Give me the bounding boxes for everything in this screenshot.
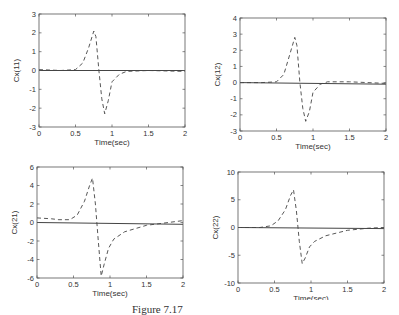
y-axis-label: Cx(11) (12, 58, 21, 82)
x-tick-label: 0.5 (271, 133, 281, 142)
x-tick-label: 2 (384, 133, 388, 142)
subplot-cx12: 00.511.52-3-2-101234Time(sec)Cx(12) (213, 14, 388, 151)
y-tick-label: 0 (233, 78, 237, 87)
solid-line (37, 223, 183, 225)
y-tick-label: -2 (27, 237, 34, 246)
dashed-line (39, 31, 185, 114)
x-tick-label: 1 (108, 280, 112, 289)
x-tick-label: 0.5 (269, 285, 279, 294)
x-tick-label: 1 (311, 133, 315, 142)
y-tick-label: 2 (32, 28, 36, 37)
x-tick-label: 1.5 (141, 280, 151, 289)
y-tick-label: 2 (233, 46, 237, 55)
x-tick-label: 0 (37, 129, 41, 138)
x-tick-label: 0 (236, 285, 240, 294)
subplot-cx11: 00.511.52-3-2-10123Time(sec)Cx(11) (12, 10, 187, 147)
y-tick-label: 1 (233, 62, 237, 71)
y-tick-label: -10 (224, 279, 235, 288)
y-tick-label: 4 (30, 181, 34, 190)
y-tick-label: 1 (32, 47, 36, 56)
x-tick-label: 2 (181, 280, 185, 289)
y-tick-label: -3 (230, 127, 237, 136)
y-tick-label: 5 (231, 195, 235, 204)
x-axis-label: Time(sec) (92, 289, 128, 298)
y-tick-label: 10 (227, 168, 235, 177)
y-axis-label: Cx(21) (10, 210, 19, 234)
y-tick-label: -3 (29, 123, 36, 132)
subplot-grid: 00.511.52-3-2-10123Time(sec)Cx(11)00.511… (0, 0, 399, 300)
x-tick-label: 0.5 (68, 280, 78, 289)
x-axis-label: Time(sec) (94, 138, 130, 147)
x-axis-label: Time(sec) (293, 294, 329, 300)
x-tick-label: 1.5 (143, 129, 153, 138)
plot-frame (240, 18, 386, 131)
y-tick-label: -6 (27, 274, 34, 283)
y-tick-label: -1 (230, 94, 237, 103)
dashed-line (240, 37, 386, 121)
y-tick-label: -5 (228, 251, 235, 260)
y-tick-label: -2 (230, 110, 237, 119)
y-axis-label: Cx(12) (213, 62, 222, 86)
x-tick-label: 2 (382, 285, 386, 294)
figure: 00.511.52-3-2-10123Time(sec)Cx(11)00.511… (0, 0, 399, 315)
x-tick-label: 1.5 (344, 133, 354, 142)
subplot-cx21: 00.511.52-6-4-20246Time(sec)Cx(21) (10, 163, 185, 298)
y-axis-label: Cx(22) (211, 215, 220, 239)
x-tick-label: 0 (238, 133, 242, 142)
y-tick-label: 3 (32, 10, 36, 19)
x-axis-label: Time(sec) (295, 142, 331, 151)
y-tick-label: 0 (231, 223, 235, 232)
x-tick-label: 2 (183, 129, 187, 138)
y-tick-label: 4 (233, 14, 237, 23)
y-tick-label: 6 (30, 163, 34, 172)
subplot-cx22: 00.511.52-10-50510Time(sec)Cx(22) (211, 168, 386, 300)
x-tick-label: 1.5 (342, 285, 352, 294)
y-tick-label: 2 (30, 200, 34, 209)
x-tick-label: 1 (309, 285, 313, 294)
x-tick-label: 0.5 (70, 129, 80, 138)
y-tick-label: 3 (233, 30, 237, 39)
x-tick-label: 1 (110, 129, 114, 138)
dashed-line (37, 178, 183, 276)
figure-caption: Figure 7.17 (132, 303, 183, 315)
x-tick-label: 0 (35, 280, 39, 289)
y-tick-label: 0 (32, 66, 36, 75)
y-tick-label: -2 (29, 104, 36, 113)
y-tick-label: 0 (30, 218, 34, 227)
y-tick-label: -1 (29, 85, 36, 94)
dashed-line (238, 190, 384, 264)
y-tick-label: -4 (27, 255, 34, 264)
